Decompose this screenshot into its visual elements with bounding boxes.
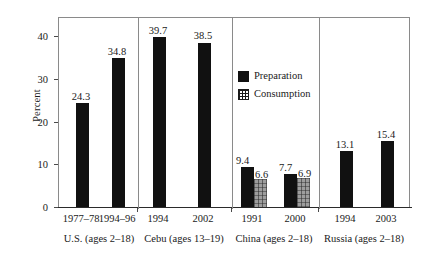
bar-preparation [284, 174, 297, 207]
bar-consumption [297, 178, 310, 207]
bar-value-label: 9.4 [236, 156, 249, 167]
bar-preparation [112, 58, 125, 207]
bar-value-label: 34.8 [106, 47, 128, 58]
bar-value-label: 13.1 [334, 140, 356, 151]
bar-value-label: 6.9 [298, 169, 311, 180]
x-tick-mark [318, 208, 319, 212]
x-tick-mark [137, 208, 138, 212]
x-tick-label: 2003 [356, 214, 416, 225]
legend-swatch-preparation-icon [238, 71, 249, 82]
bar-value-label: 39.7 [147, 26, 169, 37]
panel-divider [138, 18, 139, 209]
bar-preparation [381, 141, 394, 207]
legend-item-preparation: Preparation [238, 69, 311, 84]
legend-swatch-consumption-icon [238, 89, 249, 100]
y-tick-label: 0 [8, 203, 48, 214]
legend: Preparation Consumption [238, 69, 311, 105]
bar-value-label: 38.5 [192, 31, 214, 42]
bar-value-label: 24.3 [70, 92, 92, 103]
bar-preparation [76, 103, 89, 207]
panel-divider [319, 18, 320, 209]
bar-preparation [198, 43, 211, 208]
legend-item-consumption: Consumption [238, 87, 311, 102]
legend-label-preparation: Preparation [254, 71, 302, 82]
y-tick-label: 10 [8, 160, 48, 171]
bar-preparation [241, 167, 254, 207]
legend-label-consumption: Consumption [254, 89, 311, 100]
bar-consumption [254, 179, 267, 207]
bar-value-label: 7.7 [279, 163, 292, 174]
bar-preparation [340, 151, 353, 207]
bar-chart-figure: Percent 403020100 Preparation Consumptio… [0, 0, 426, 258]
bar-preparation [153, 37, 166, 207]
y-tick-label: 20 [8, 118, 48, 129]
group-label: Russia (ages 2–18) [304, 234, 424, 245]
bar-value-label: 15.4 [375, 130, 397, 141]
x-tick-mark [231, 208, 232, 212]
bar-value-label: 6.6 [255, 170, 268, 181]
y-tick-label: 30 [8, 75, 48, 86]
panel-divider [232, 18, 233, 209]
y-tick-label: 40 [8, 32, 48, 43]
